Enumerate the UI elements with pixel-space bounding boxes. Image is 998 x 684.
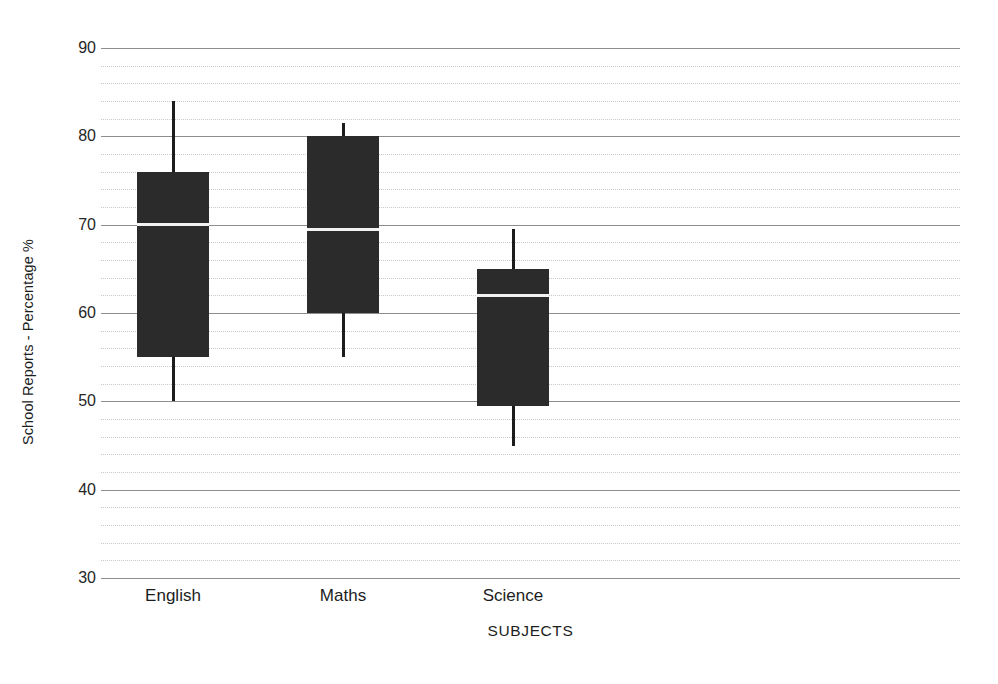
box-plot-science[interactable] bbox=[477, 48, 549, 578]
box-plot-english[interactable] bbox=[137, 48, 209, 578]
box-body bbox=[477, 269, 549, 406]
upper-whisker bbox=[512, 229, 515, 269]
y-tick-label: 60 bbox=[78, 304, 96, 322]
box-plot-chart: School Reports - Percentage % 3040506070… bbox=[0, 0, 998, 684]
median-line bbox=[477, 294, 549, 297]
upper-whisker bbox=[172, 101, 175, 172]
y-tick-label: 40 bbox=[78, 481, 96, 499]
x-axis-title: SUBJECTS bbox=[101, 622, 960, 640]
y-tick-label: 90 bbox=[78, 39, 96, 57]
x-axis-tick-labels: EnglishMathsScience bbox=[101, 586, 960, 616]
gridline-major bbox=[101, 578, 960, 579]
y-axis-title: School Reports - Percentage % bbox=[0, 0, 56, 684]
median-line bbox=[137, 223, 209, 226]
box-body bbox=[137, 172, 209, 358]
y-tick-label: 80 bbox=[78, 127, 96, 145]
y-tick-label: 70 bbox=[78, 216, 96, 234]
box-plot-maths[interactable] bbox=[307, 48, 379, 578]
median-line bbox=[307, 228, 379, 231]
box-body bbox=[307, 136, 379, 313]
plot-area bbox=[101, 48, 960, 578]
upper-whisker bbox=[342, 123, 345, 136]
y-axis-tick-labels: 30405060708090 bbox=[50, 40, 96, 580]
y-tick-label: 30 bbox=[78, 569, 96, 587]
x-tick-label-english: English bbox=[145, 586, 201, 606]
lower-whisker bbox=[172, 357, 175, 401]
y-tick-label: 50 bbox=[78, 392, 96, 410]
x-tick-label-maths: Maths bbox=[320, 586, 366, 606]
lower-whisker bbox=[342, 313, 345, 357]
x-tick-label-science: Science bbox=[483, 586, 543, 606]
lower-whisker bbox=[512, 406, 515, 446]
